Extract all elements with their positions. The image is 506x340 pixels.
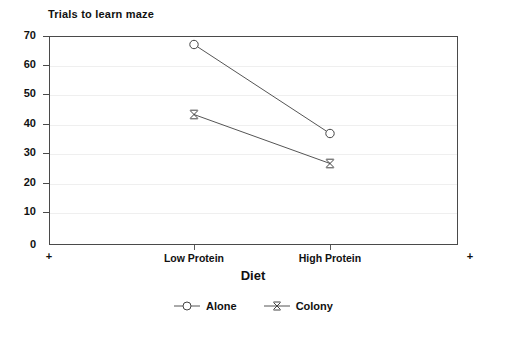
x-axis-title: Diet [0, 268, 506, 283]
interaction-plot-figure: Trials to learn maze 70 60 50 40 30 20 1… [0, 0, 506, 340]
y-tick-mark-20 [43, 183, 49, 184]
y-tick-label-20: 20 [0, 177, 36, 188]
legend-marker-open-circle-icon [173, 300, 201, 312]
x-axis-left-plus-marker: + [46, 250, 52, 262]
y-tick-label-50: 50 [0, 88, 36, 99]
x-tick-mark-high-protein [330, 245, 331, 250]
gridline-20 [50, 184, 457, 185]
gridline-30 [50, 154, 457, 155]
chart-legend: Alone Colony [0, 300, 506, 312]
gridline-50 [50, 95, 457, 96]
x-tick-label-low-protein: Low Protein [164, 252, 224, 264]
gridline-40 [50, 125, 457, 126]
legend-marker-cross-x-icon [263, 300, 291, 312]
x-tick-label-high-protein: High Protein [299, 252, 361, 264]
y-tick-label-40: 40 [0, 118, 36, 129]
y-tick-label-10: 10 [0, 206, 36, 217]
gridline-10 [50, 213, 457, 214]
y-tick-label-60: 60 [0, 59, 36, 70]
x-axis-right-plus-marker: + [467, 250, 473, 262]
y-tick-label-30: 30 [0, 147, 36, 158]
gridline-60 [50, 66, 457, 67]
y-tick-mark-70 [43, 36, 49, 37]
y-tick-mark-10 [43, 212, 49, 213]
legend-entry-colony: Colony [263, 300, 333, 312]
plot-area [49, 36, 458, 245]
y-tick-label-70: 70 [0, 30, 36, 41]
chart-title: Trials to learn maze [48, 8, 154, 20]
legend-entry-alone: Alone [173, 300, 237, 312]
y-tick-mark-40 [43, 124, 49, 125]
legend-label-alone: Alone [206, 300, 237, 312]
y-tick-mark-60 [43, 65, 49, 66]
y-tick-mark-30 [43, 153, 49, 154]
legend-label-colony: Colony [296, 300, 333, 312]
y-tick-label-0: 0 [0, 239, 36, 250]
x-tick-mark-low-protein [194, 245, 195, 250]
y-tick-mark-50 [43, 94, 49, 95]
